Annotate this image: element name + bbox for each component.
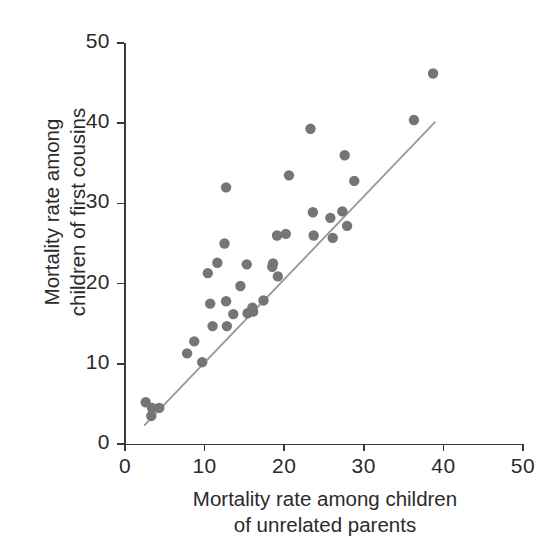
plot-canvas	[125, 43, 523, 444]
data-point	[197, 357, 207, 367]
y-tick-30	[117, 203, 124, 205]
data-point	[228, 309, 238, 319]
trend-line	[144, 122, 435, 426]
data-point	[258, 295, 268, 305]
data-point	[325, 213, 335, 223]
data-point	[248, 306, 258, 316]
x-tick-label-40: 40	[420, 454, 466, 478]
x-tick-label-20: 20	[261, 454, 307, 478]
data-point	[219, 238, 229, 248]
x-tick-50	[522, 444, 524, 451]
y-axis-title-line-2: children of first cousins	[65, 0, 91, 427]
x-tick-40	[443, 444, 445, 451]
y-tick-label-0: 0	[64, 430, 110, 454]
data-point	[337, 206, 347, 216]
data-point	[154, 403, 164, 413]
x-tick-30	[363, 444, 365, 451]
x-tick-10	[204, 444, 206, 451]
plot-area	[125, 43, 523, 444]
data-point	[222, 321, 232, 331]
data-point	[272, 230, 282, 240]
data-point	[428, 68, 438, 78]
x-axis-title: Mortality rate among children of unrelat…	[110, 486, 540, 538]
y-tick-50	[117, 42, 124, 44]
data-point	[409, 115, 419, 125]
x-tick-20	[283, 444, 285, 451]
data-point	[242, 259, 252, 269]
data-point	[203, 268, 213, 278]
data-point	[205, 298, 215, 308]
data-point	[268, 258, 278, 268]
x-axis-title-line-1: Mortality rate among children	[110, 486, 540, 512]
x-tick-0	[124, 444, 126, 451]
y-axis-title-line-1: Mortality rate among	[39, 0, 65, 427]
y-tick-10	[117, 363, 124, 365]
data-point	[207, 321, 217, 331]
y-tick-40	[117, 122, 124, 124]
x-tick-label-10: 10	[182, 454, 228, 478]
data-point	[212, 258, 222, 268]
data-point	[189, 336, 199, 346]
x-axis-title-line-2: of unrelated parents	[110, 512, 540, 538]
data-points-group	[140, 68, 438, 421]
data-point	[281, 229, 291, 239]
data-point	[273, 271, 283, 281]
data-point	[182, 348, 192, 358]
data-point	[221, 296, 231, 306]
x-tick-label-50: 50	[500, 454, 546, 478]
data-point	[235, 281, 245, 291]
scatter-plot-figure: 0102030405001020304050 Mortality rate am…	[0, 0, 559, 548]
y-tick-20	[117, 283, 124, 285]
data-point	[146, 411, 156, 421]
data-point	[221, 182, 231, 192]
y-tick-0	[117, 443, 124, 445]
x-tick-label-30: 30	[341, 454, 387, 478]
data-point	[308, 207, 318, 217]
data-point	[328, 233, 338, 243]
data-point	[305, 124, 315, 134]
data-point	[349, 176, 359, 186]
x-tick-label-0: 0	[102, 454, 148, 478]
data-point	[284, 170, 294, 180]
data-point	[339, 150, 349, 160]
y-axis-title: Mortality rate among children of first c…	[39, 0, 91, 427]
data-point	[308, 230, 318, 240]
data-point	[342, 221, 352, 231]
